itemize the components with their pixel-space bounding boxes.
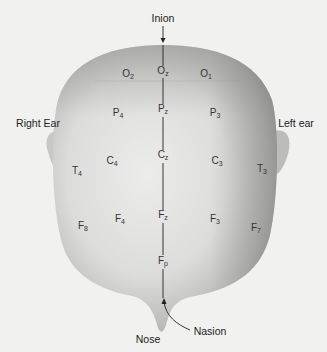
electrode-p4: P4	[113, 108, 124, 121]
nasion-label: Nasion	[194, 326, 227, 336]
electrode-pz: Pz	[158, 104, 168, 117]
electrode-f7: F7	[251, 223, 261, 236]
electrode-fp: Fp	[158, 256, 168, 269]
electrode-t4: T4	[72, 166, 82, 179]
electrode-cz: Cz	[158, 150, 169, 163]
right-ear-label: Right Ear	[16, 118, 60, 128]
electrode-oz: Oz	[157, 66, 168, 79]
electrode-f8: F8	[78, 221, 88, 234]
left-ear-label: Left ear	[278, 118, 314, 128]
electrode-f3: F3	[210, 214, 220, 227]
nose-label: Nose	[136, 334, 161, 344]
electrode-p3: P3	[210, 108, 221, 121]
inion-label: Inion	[152, 13, 175, 23]
electrode-o2: O2	[122, 69, 134, 82]
electrode-c3: C3	[211, 156, 222, 169]
electrode-t3: T3	[257, 164, 267, 177]
electrode-fz: Fz	[158, 210, 168, 223]
electrode-o1: O1	[200, 69, 212, 82]
electrode-f4: F4	[115, 214, 125, 227]
electrode-c4: C4	[106, 156, 117, 169]
head-illustration	[0, 0, 327, 352]
